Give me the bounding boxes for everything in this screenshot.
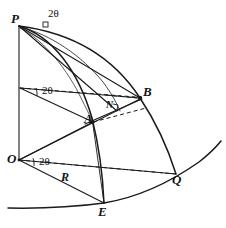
line-e-vertical	[92, 118, 104, 203]
label-angle-middle: 2θ	[42, 85, 53, 96]
arc-p-q-outer	[19, 26, 176, 174]
arc-base-ground	[8, 141, 221, 208]
geometry-figure	[0, 0, 226, 228]
label-point-b: B	[143, 85, 152, 98]
label-point-q: Q	[172, 173, 181, 186]
label-angle-top: 2θ	[48, 8, 59, 19]
right-angle-p	[43, 22, 48, 27]
label-point-o: O	[7, 152, 16, 165]
label-point-a: A	[84, 112, 93, 125]
dot-b	[138, 96, 142, 100]
label-radius-r: R	[61, 171, 69, 183]
arcs-group	[8, 26, 221, 208]
label-point-n: N	[106, 100, 113, 110]
line-a-b	[85, 99, 142, 124]
dot-o	[18, 159, 21, 162]
angle-arc-o	[33, 158, 34, 166]
line-p-b	[19, 26, 140, 98]
label-point-e: E	[98, 205, 107, 218]
figure-canvas: P O A N B E Q 2θ 2θ 2θ R	[0, 0, 226, 228]
label-angle-bottom: 2θ	[39, 156, 50, 167]
label-point-p: P	[11, 12, 19, 25]
solid-lines-group	[19, 26, 176, 203]
